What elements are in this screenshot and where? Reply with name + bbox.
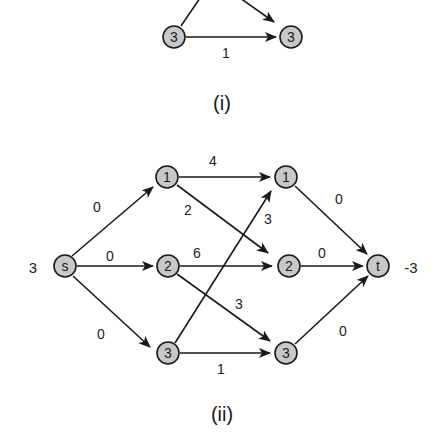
node-label: 2: [164, 258, 172, 274]
node-1R: 1: [275, 166, 297, 188]
edge-label-3L-3R: 1: [217, 361, 225, 377]
sink-demand: -3: [404, 259, 417, 276]
edge-3R-t: [295, 276, 368, 344]
edge-label-2L-3R: 3: [235, 296, 243, 312]
node-2L: 2: [157, 255, 179, 277]
edge-label-3L-1R: 3: [264, 211, 272, 227]
node-label: 3: [170, 29, 178, 45]
node-label: 3: [282, 345, 290, 361]
figure-i: 1 3 3 (i): [163, 0, 302, 114]
edge-label-2L-2R: 6: [193, 245, 201, 261]
node-3L: 3: [157, 342, 179, 364]
edge-label-1L-2R: 2: [184, 202, 192, 218]
source-supply: 3: [29, 259, 37, 276]
caption-i: (i): [213, 92, 231, 114]
node-label: 1: [282, 169, 290, 185]
edge-label-s-1L: 0: [93, 199, 101, 215]
node-t: t: [367, 255, 389, 277]
edge-label-3R-t: 0: [339, 323, 347, 339]
edge-label-2R-t: 0: [318, 245, 326, 261]
node-3R: 3: [275, 342, 297, 364]
node-label: 1: [163, 169, 171, 185]
edge-1R-t: [295, 186, 367, 254]
network-flow-diagram: 1 3 3 (i) 0 0 0 4 2 6 3: [0, 0, 439, 444]
edge-label-s-3L: 0: [97, 326, 105, 342]
edge-s-1L: [72, 187, 153, 256]
node-i-b: 3: [280, 26, 302, 48]
edge-label-1R-t: 0: [335, 191, 343, 207]
node-s: s: [54, 255, 76, 277]
node-i-a: 3: [163, 26, 185, 48]
node-1L: 1: [156, 166, 178, 188]
edge-partial-down: [240, 0, 274, 22]
edge-label-i-a-b: 1: [222, 45, 230, 61]
node-label: s: [62, 258, 69, 274]
edge-partial-up: [181, 0, 200, 26]
edge-label-1L-1R: 4: [209, 153, 217, 169]
node-label: 2: [285, 258, 293, 274]
edge-2L-3R: [177, 274, 270, 341]
caption-ii: (ii): [211, 403, 233, 425]
edge-label-s-2L: 0: [106, 248, 114, 264]
node-label: t: [376, 258, 380, 274]
node-label: 3: [287, 29, 295, 45]
node-label: 3: [164, 345, 172, 361]
edge-s-3L: [73, 276, 150, 347]
node-2R: 2: [278, 255, 300, 277]
edge-1L-2R: [177, 185, 268, 253]
figure-ii: 0 0 0 4 2 6 3 3 1 0 0 0: [29, 153, 418, 425]
